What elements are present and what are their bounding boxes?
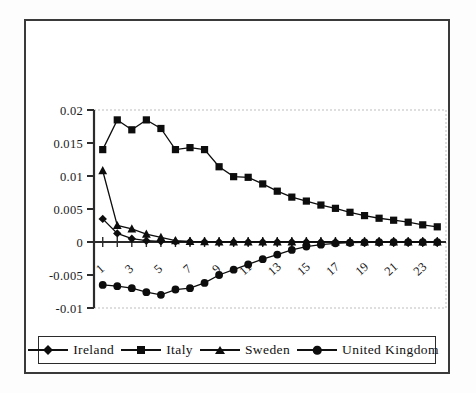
data-point — [288, 194, 295, 201]
data-point — [143, 116, 150, 123]
y-tick-label: 0.015 — [53, 137, 83, 151]
data-point — [375, 238, 383, 246]
data-point — [274, 188, 281, 195]
data-point — [419, 221, 426, 228]
plot-background — [94, 110, 446, 308]
data-point — [172, 286, 180, 294]
legend-item-united-kingdom[interactable]: United Kingdom — [297, 342, 446, 358]
y-tick-label: -0.005 — [49, 269, 83, 283]
data-point — [303, 197, 310, 204]
data-point — [259, 180, 266, 187]
y-tick-label: 0.005 — [53, 203, 83, 217]
data-point — [157, 125, 164, 132]
data-point — [332, 239, 340, 247]
legend-item-ireland[interactable]: Ireland — [28, 342, 121, 358]
legend-square-icon — [137, 346, 145, 354]
legend-label: United Kingdom — [337, 342, 446, 358]
data-point — [128, 126, 135, 133]
legend-label: Ireland — [68, 342, 121, 358]
data-point — [201, 146, 208, 153]
y-tick-label: 0.02 — [60, 104, 83, 118]
legend-triangle-icon — [215, 346, 225, 354]
legend-diamond-icon — [43, 345, 53, 355]
data-point — [215, 163, 222, 170]
data-point — [99, 146, 106, 153]
y-tick-label: 0 — [76, 236, 83, 250]
data-point — [230, 266, 238, 274]
data-point — [157, 291, 165, 299]
plot-frame — [94, 110, 446, 308]
data-point — [142, 288, 150, 296]
data-point — [186, 144, 193, 151]
data-point — [259, 255, 267, 263]
data-point — [434, 223, 441, 230]
impulse-response-chart: 0.020.0150.010.0050-0.005-0.01 135791113… — [0, 0, 476, 393]
data-point — [230, 173, 237, 180]
y-axis: 0.020.0150.010.0050-0.005-0.01 — [49, 104, 94, 316]
data-point — [245, 174, 252, 181]
data-point — [128, 284, 136, 292]
data-point — [288, 246, 296, 254]
legend-marker-square-icon — [121, 343, 161, 357]
data-point — [215, 271, 223, 279]
data-point — [346, 239, 354, 247]
data-point — [390, 238, 398, 246]
data-point — [317, 241, 325, 249]
chart-legend: IrelandItalySwedenUnited Kingdom — [38, 336, 436, 364]
figure-container: 0.020.0150.010.0050-0.005-0.01 135791113… — [0, 0, 476, 393]
y-tick-label: -0.01 — [55, 302, 83, 316]
data-point — [390, 217, 397, 224]
data-point — [361, 212, 368, 219]
data-point — [302, 243, 310, 251]
data-point — [186, 284, 194, 292]
y-tick-label: 0.01 — [60, 170, 83, 184]
data-point — [201, 279, 209, 287]
data-point — [419, 238, 427, 246]
data-point — [114, 116, 121, 123]
data-point — [273, 251, 281, 259]
legend-item-sweden[interactable]: Sweden — [200, 342, 297, 358]
data-point — [113, 282, 121, 290]
data-point — [332, 205, 339, 212]
legend-label: Sweden — [240, 342, 297, 358]
data-point — [99, 281, 107, 289]
data-point — [346, 209, 353, 216]
data-point — [405, 219, 412, 226]
legend-marker-diamond-icon — [28, 343, 68, 357]
data-point — [172, 146, 179, 153]
legend-marker-circle-icon — [297, 343, 337, 357]
data-point — [244, 261, 252, 269]
legend-label: Italy — [161, 342, 200, 358]
data-point — [404, 238, 412, 246]
legend-item-italy[interactable]: Italy — [121, 342, 200, 358]
legend-circle-icon — [313, 346, 322, 355]
data-point — [361, 238, 369, 246]
data-point — [375, 215, 382, 222]
legend-marker-triangle-icon — [200, 343, 240, 357]
data-point — [317, 201, 324, 208]
data-point — [433, 238, 441, 246]
